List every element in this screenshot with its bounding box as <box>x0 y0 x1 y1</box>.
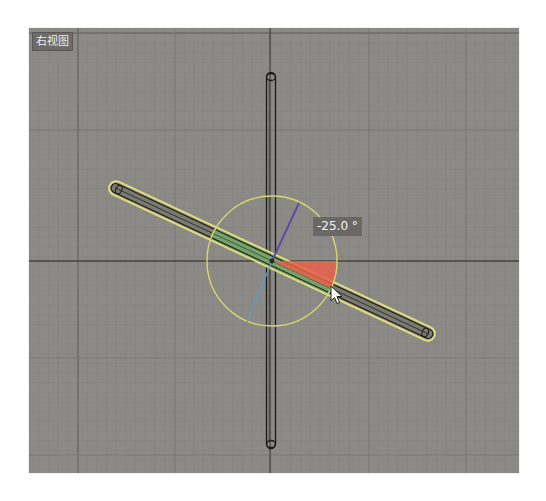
viewport-right-view[interactable]: 右视图 -25.0 ° <box>29 28 519 473</box>
rotation-angle-readout: -25.0 ° <box>313 217 362 236</box>
view-label[interactable]: 右视图 <box>32 32 73 51</box>
gizmo-center[interactable] <box>270 259 275 264</box>
viewport-canvas[interactable] <box>29 28 519 473</box>
minor-grid <box>29 28 519 473</box>
mouse-pointer-icon <box>330 285 344 305</box>
